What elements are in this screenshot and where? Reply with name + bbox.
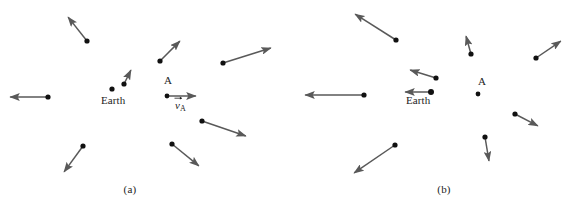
point-a-dot-panel-b: [476, 92, 481, 97]
galaxy-dot-b-galaxy-upper-left: [393, 37, 398, 42]
galaxy-dot-a-galaxy-upper-left: [84, 38, 89, 43]
earth-dot-panel-a: [109, 86, 114, 91]
velocity-arrow-b-galaxy-mid-left: [410, 70, 436, 78]
vector-diagram-svg: [0, 0, 576, 210]
velocity-vector-label-va: vA: [175, 99, 186, 113]
galaxy-dot-a-galaxy-left: [45, 94, 50, 99]
galaxy-dot-a-galaxy-lower-right: [199, 118, 204, 123]
velocity-arrow-b-galaxy-lower-right: [515, 114, 538, 126]
velocity-arrow-b-galaxy-lower-mid: [485, 137, 489, 161]
velocity-arrow-a-galaxy-lower-right: [202, 121, 246, 136]
galaxy-dot-a-galaxy-upper-right: [220, 60, 225, 65]
point-a-dot-panel-a: [165, 94, 170, 99]
galaxy-dot-b-galaxy-lower-left: [392, 142, 397, 147]
figure-container: Earth A vA (a) Earth A (b): [0, 0, 576, 210]
velocity-symbol-letter: v: [175, 99, 180, 111]
galaxy-dot-a-galaxy-lower-mid: [169, 141, 174, 146]
point-a-label-panel-a: A: [164, 74, 172, 86]
galaxy-dot-b-galaxy-lower-right: [512, 111, 517, 116]
velocity-arrow-b-galaxy-upper-left: [355, 14, 396, 40]
earth-label-panel-b: Earth: [406, 94, 430, 106]
galaxy-dots: [45, 37, 538, 148]
velocity-arrow-a-galaxy-lower-left: [64, 146, 83, 172]
velocity-arrow-b-galaxy-upper-right: [536, 41, 561, 58]
panel-caption-a: (a): [110, 183, 150, 195]
velocity-symbol-v: v: [175, 99, 180, 111]
velocity-arrow-a-galaxy-lower-mid: [172, 144, 199, 166]
galaxy-dot-b-galaxy-left: [361, 92, 366, 97]
velocity-arrow-a-galaxy-upper-mid: [160, 41, 180, 61]
velocity-arrow-b-galaxy-upper-mid: [466, 36, 471, 54]
velocity-arrow-a-galaxy-upper-left: [68, 17, 87, 41]
point-a-label-panel-b: A: [478, 75, 486, 87]
galaxy-dot-a-galaxy-inner-upper: [121, 81, 126, 86]
galaxy-dot-b-galaxy-upper-right: [533, 55, 538, 60]
earth-label-panel-a: Earth: [101, 94, 125, 106]
galaxy-dot-a-galaxy-lower-left: [80, 143, 85, 148]
galaxy-dot-b-galaxy-upper-mid: [468, 51, 473, 56]
velocity-arrow-b-galaxy-lower-left: [354, 145, 395, 173]
panel-caption-b: (b): [424, 183, 464, 195]
panel-a-vectors: [10, 17, 271, 172]
galaxy-dot-b-galaxy-lower-mid: [482, 134, 487, 139]
galaxy-dot-b-galaxy-mid-left: [433, 75, 438, 80]
velocity-arrow-a-galaxy-upper-right: [223, 48, 271, 63]
velocity-symbol-subscript: A: [180, 104, 186, 113]
galaxy-dot-a-galaxy-upper-mid: [157, 58, 162, 63]
